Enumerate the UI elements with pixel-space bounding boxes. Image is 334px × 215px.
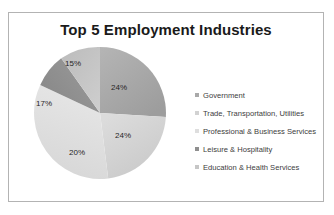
pie-label-trade-transportation-utilities: 24% <box>115 131 131 140</box>
pie-label-education-health-services: 15% <box>65 59 81 68</box>
legend-swatch-icon <box>195 93 199 97</box>
chart-panel: Top 5 Employment Industries <box>8 12 324 202</box>
legend-label: Leisure & Hospitality <box>203 145 272 154</box>
pie-chart: 24% 24% 20% 17% 15% <box>33 46 167 180</box>
pie-slice-trade-transportation-utilities <box>100 113 166 178</box>
chart-title: Top 5 Employment Industries <box>9 21 323 38</box>
pie-slice-government <box>100 47 166 117</box>
legend-label: Professional & Business Services <box>203 127 316 136</box>
legend-item-government[interactable]: Government <box>195 86 321 104</box>
legend-swatch-icon <box>195 129 199 133</box>
chart-legend: Government Trade, Transportation, Utilit… <box>195 86 321 176</box>
legend-item-education-health-services[interactable]: Education & Health Services <box>195 158 321 176</box>
pie-label-professional-business-services: 20% <box>69 148 85 157</box>
legend-swatch-icon <box>195 165 199 169</box>
pie-label-leisure-hospitality: 17% <box>36 99 52 108</box>
legend-label: Government <box>203 91 245 100</box>
legend-item-leisure-hospitality[interactable]: Leisure & Hospitality <box>195 140 321 158</box>
legend-item-professional-business-services[interactable]: Professional & Business Services <box>195 122 321 140</box>
legend-label: Trade, Transportation, Utilities <box>203 109 304 118</box>
pie-svg <box>33 46 167 180</box>
legend-label: Education & Health Services <box>203 163 299 172</box>
legend-item-trade-transportation-utilities[interactable]: Trade, Transportation, Utilities <box>195 104 321 122</box>
legend-swatch-icon <box>195 111 199 115</box>
pie-label-government: 24% <box>111 83 127 92</box>
legend-swatch-icon <box>195 147 199 151</box>
